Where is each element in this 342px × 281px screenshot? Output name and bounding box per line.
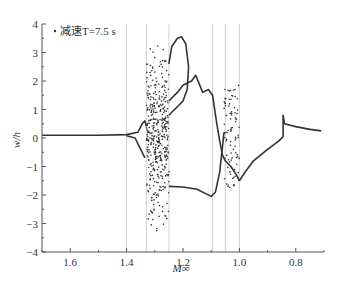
scatter-point [153,102,155,104]
scatter-point [158,177,160,179]
scatter-point [157,119,159,121]
scatter-point [166,147,168,149]
scatter-point [152,79,154,81]
scatter-point [156,140,158,142]
scatter-point [151,138,153,140]
scatter-point [165,128,167,130]
scatter-point [237,134,239,136]
scatter-point [159,133,161,135]
scatter-point [234,112,236,114]
scatter-point [166,174,168,176]
scatter-point [162,122,164,124]
scatter-point [164,127,166,129]
scatter-point [162,104,164,106]
scatter-point [157,193,159,195]
scatter-point [159,205,161,207]
scatter-point [152,128,154,130]
scatter-point [226,115,228,117]
scatter-point [153,110,155,112]
scatter-point [165,164,167,166]
scatter-point [160,143,162,145]
scatter-point [148,127,150,129]
scatter-point [158,189,160,191]
scatter-point [153,140,155,142]
scatter-point [152,52,154,54]
scatter-point [224,178,226,180]
scatter-point [166,110,168,112]
scatter-point [234,146,236,148]
scatter-point [150,142,152,144]
scatter-point [166,155,168,157]
scatter-point [148,160,150,162]
scatter-point [165,131,167,133]
scatter-point [167,137,169,139]
scatter-point [164,156,166,158]
scatter-point [150,103,152,105]
scatter-point [162,114,164,116]
scatter-point [164,182,166,184]
scatter-point [153,147,155,149]
scatter-point [162,49,164,51]
scatter-point [230,173,232,175]
scatter-point [164,90,166,92]
scatter-point [234,175,236,177]
scatter-point [164,85,166,87]
scatter-point [160,171,162,173]
scatter-point [164,97,166,99]
scatter-point [154,135,156,137]
scatter-point [163,224,165,226]
scatter-point [228,98,230,100]
x-axis-label: M∞ [171,262,189,274]
scatter-point [156,103,158,105]
scatter-point [153,204,155,206]
scatter-point [168,181,170,183]
scatter-point [161,144,163,146]
scatter-point [163,169,165,171]
scatter-point [148,98,150,100]
scatter-point [230,145,232,147]
scatter-point [152,106,154,108]
scatter-point [152,165,154,167]
series-line-upper-loop [169,37,189,115]
y-tick-label: 4 [33,18,39,30]
scatter-point [146,92,148,94]
scatter-point [162,211,164,213]
scatter-point [236,113,238,115]
scatter-point [168,89,170,91]
scatter-point [154,85,156,87]
scatter-point [151,135,153,137]
scatter-point [147,95,149,97]
scatter-point [159,119,161,121]
scatter-point [147,139,149,141]
scatter-point [157,121,159,123]
y-tick-label: −2 [26,189,38,201]
scatter-point [152,161,154,163]
scatter-point [153,127,155,129]
scatter-point [153,209,155,211]
scatter-point [166,81,168,83]
scatter-point [162,136,164,138]
scatter-point [150,96,152,98]
scatter-point [148,115,150,117]
scatter-point [156,124,158,126]
scatter-point [231,157,233,159]
scatter-point [164,167,166,169]
scatter-point [156,228,158,230]
scatter-point [154,57,156,59]
scatter-point [153,151,155,153]
y-tick-label: −4 [26,246,38,258]
scatter-point [167,108,169,110]
scatter-point [161,152,163,154]
scatter-point [162,60,164,62]
scatter-point [155,130,157,132]
y-tick-label: −1 [26,161,38,173]
scatter-point [147,151,149,153]
scatter-point [146,149,148,151]
scatter-point [150,119,152,121]
scatter-point [149,188,151,190]
scatter-point [166,100,168,102]
scatter-point [237,98,239,100]
scatter-point [162,178,164,180]
scatter-point [156,81,158,83]
scatter-point [229,103,231,105]
